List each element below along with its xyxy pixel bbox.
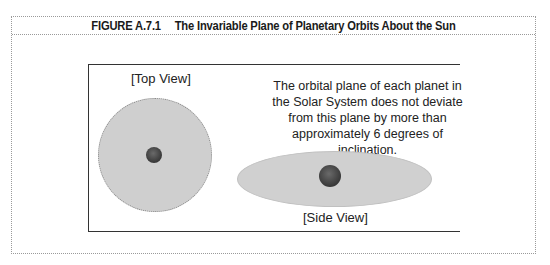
plane-description: The orbital plane of each planet in the …	[265, 78, 470, 158]
figure-number: FIGURE A.7.1	[91, 18, 161, 33]
figure-title: FIGURE A.7.1The Invariable Plane of Plan…	[49, 18, 499, 33]
side-view-label: [Side View]	[303, 210, 368, 225]
figure-header: FIGURE A.7.1The Invariable Plane of Plan…	[12, 17, 535, 35]
sun-icon	[146, 147, 162, 163]
top-view-label: [Top View]	[131, 71, 191, 86]
sun-icon	[319, 165, 341, 187]
figure-caption: The Invariable Plane of Planetary Orbits…	[175, 18, 456, 33]
